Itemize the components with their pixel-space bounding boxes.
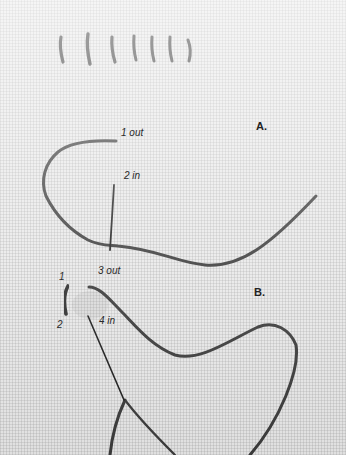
completed-stitches-row [60,34,190,64]
step-4-in-label: 4 in [99,316,115,326]
section-a-needle [110,185,114,250]
embroidery-photo: A. 1 out 2 in 3 out B. 1 2 4 in [0,0,346,455]
section-b-needle [88,316,124,400]
section-a-thread [43,141,316,265]
step-3-out-label: 3 out [98,266,120,276]
section-b-label: B. [254,287,265,298]
section-b-completed-stitch [64,286,68,314]
section-b-thread [89,287,297,455]
section-a-label: A. [256,121,267,132]
step-2-in-label: 2 in [124,171,140,181]
point-1-label: 1 [59,272,65,282]
step-1-out-label: 1 out [121,128,143,138]
point-2-label: 2 [57,320,63,330]
stitch-illustration [0,0,346,455]
